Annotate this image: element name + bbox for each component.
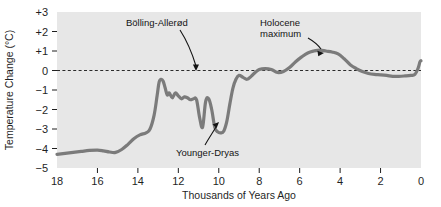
y-axis-title: Temperature Change (°C) [3,30,15,150]
x-tick-label: 8 [256,175,262,187]
x-tick-label: 10 [213,175,225,187]
x-tick-label: 16 [91,175,103,187]
y-tick-label: −2 [35,104,48,116]
y-tick-label: −4 [35,143,48,155]
x-tick-label: 2 [377,175,383,187]
y-tick-label: +1 [35,45,48,57]
y-tick-label: +3 [35,6,48,18]
y-tick-label: −1 [35,84,48,96]
x-axis-title: Thousands of Years Ago [182,189,296,201]
plot-area-background [57,12,421,168]
paleoclimate-temperature-chart: +3+2+10−1−2−3−4−5 181614121086420 Temper… [0,0,441,207]
x-tick-label: 12 [172,175,184,187]
y-tick-label: −5 [35,162,48,174]
x-tick-label: 18 [51,175,63,187]
y-tick-label: −3 [35,123,48,135]
x-tick-label: 6 [297,175,303,187]
x-tick-label: 14 [132,175,144,187]
annotation-bolling-allerod-label: Bölling-Allerød [126,17,188,28]
annotation-holocene-maximum-label-line1: Holocene [260,17,300,28]
y-tick-label: 0 [42,65,48,77]
y-tick-label: +2 [35,26,48,38]
x-tick-label: 4 [337,175,343,187]
annotation-holocene-maximum-label-line2: maximum [260,28,301,39]
x-tick-label: 0 [418,175,424,187]
chart-canvas: +3+2+10−1−2−3−4−5 181614121086420 Temper… [0,0,441,207]
y-axis-tick-labels: +3+2+10−1−2−3−4−5 [35,6,48,174]
annotation-younger-dryas-label: Younger-Dryas [176,147,239,158]
